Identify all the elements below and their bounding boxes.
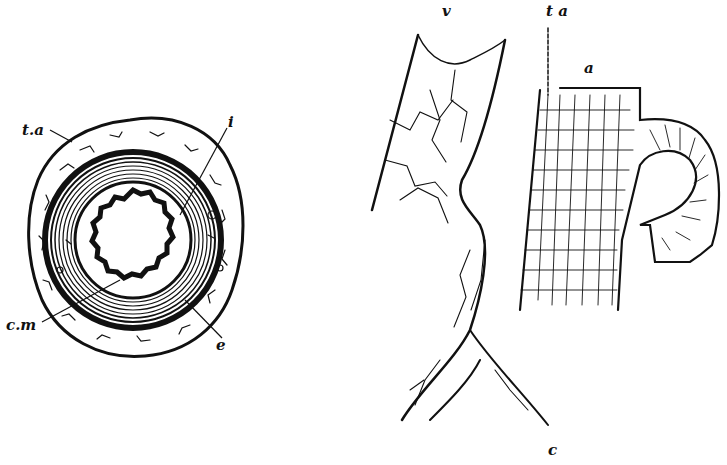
anatomical-figure: t.a i c.m e v t a a c [0,0,727,465]
artery-cross-section [29,118,243,356]
label-circular-muscle: c.m [6,318,36,333]
label-elastic: e [216,338,226,353]
label-tunica-adventitia: t.a [22,123,44,138]
label-tunica-adventitia-right: t a [546,4,568,19]
illustration-drawing [0,0,727,465]
vein-drawing [372,35,548,425]
label-intima: i [228,115,234,130]
artery-drawing [520,28,719,310]
label-artery: a [584,61,594,76]
label-capillary: c [548,443,557,458]
label-vein: v [442,4,451,19]
